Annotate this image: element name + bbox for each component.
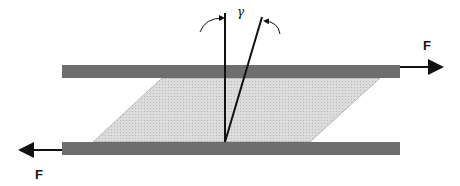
sheared-fluid-region (93, 78, 380, 142)
top-plate (62, 65, 400, 78)
force-label-top: F (423, 38, 431, 53)
force-label-bottom: F (35, 167, 43, 182)
shear-diagram (0, 0, 460, 186)
shear-angle-label: γ (237, 5, 244, 19)
rotation-arc-left-icon (200, 18, 223, 32)
rotation-arc-right-icon (265, 21, 280, 34)
bottom-plate (62, 142, 400, 155)
